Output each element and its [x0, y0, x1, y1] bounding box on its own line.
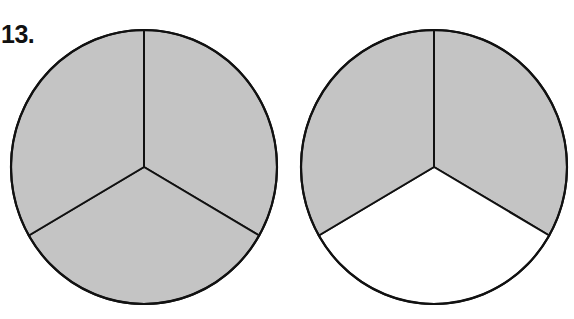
fraction-circles [0, 0, 574, 319]
circle-right [301, 30, 567, 304]
circle-left [11, 30, 277, 304]
